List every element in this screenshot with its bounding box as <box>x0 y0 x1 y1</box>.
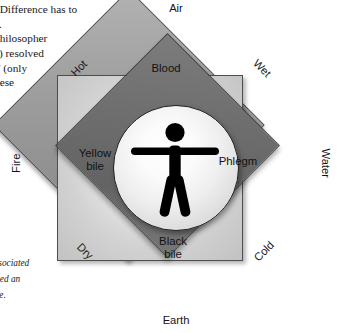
element-label-earth: Earth <box>141 314 211 327</box>
humour-label-yellow-bile: Yellow bile <box>60 147 130 173</box>
element-label-air: Air <box>141 2 211 15</box>
humour-label-blood: Blood <box>131 62 201 75</box>
quality-label-cold: Cold <box>244 231 284 271</box>
humour-label-phlegm: Phlegm <box>205 155 271 168</box>
element-label-water: Water <box>320 135 333 191</box>
humour-label-black-bile: Black bile <box>138 235 208 261</box>
page-body-text-bottom: th, associated fined an age. <box>0 222 29 303</box>
figure-canvas: . Difference has to y. philosopher c) re… <box>0 0 341 333</box>
element-label-fire: Fire <box>10 135 23 191</box>
quality-label-wet: Wet <box>242 48 282 88</box>
